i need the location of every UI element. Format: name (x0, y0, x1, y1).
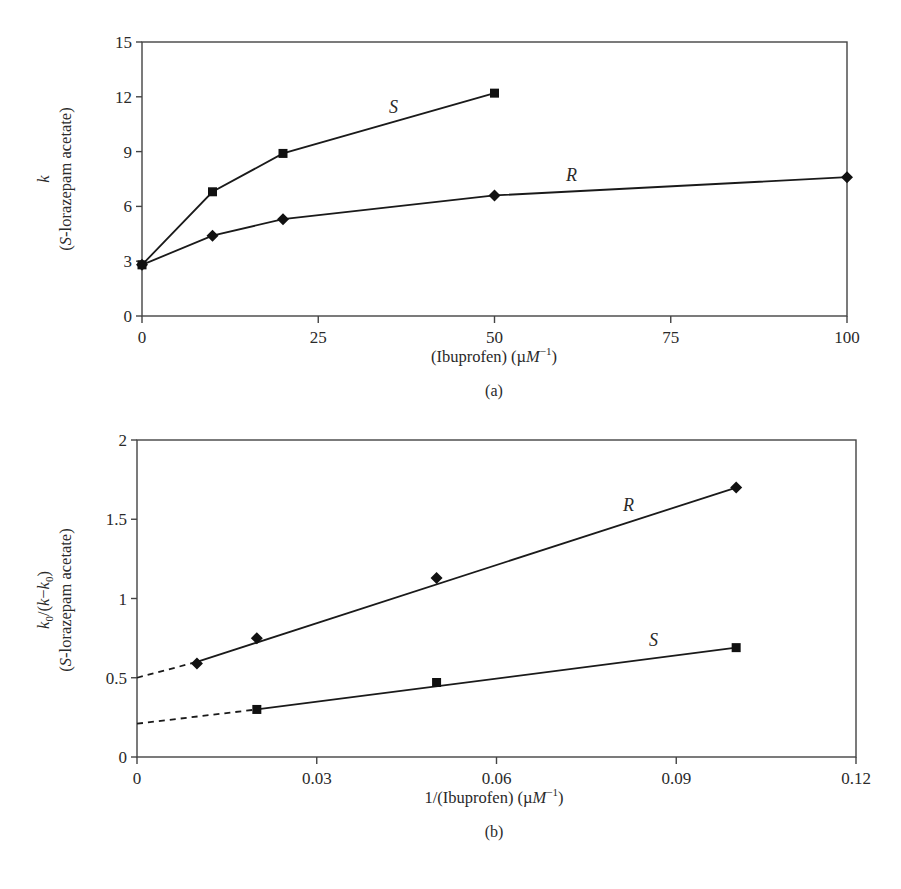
extrapolation-line (137, 709, 257, 723)
y-tick-label: 3 (124, 252, 133, 271)
y-axis-title-a: k (S-lorazepam acetate) (34, 107, 75, 250)
diamond-marker (191, 657, 203, 669)
y-tick-label: 12 (115, 88, 132, 107)
series-group-b (137, 482, 742, 724)
plot-frame-b (137, 440, 856, 757)
x-tick-label: 75 (662, 328, 679, 347)
panel-label-b: (b) (485, 823, 504, 841)
square-marker (279, 149, 288, 158)
y-tick-label: 0.5 (106, 669, 127, 688)
square-marker (208, 187, 217, 196)
x-tick-label: 0.06 (482, 769, 512, 788)
diamond-marker (277, 213, 289, 225)
y-tick-label: 9 (124, 143, 133, 162)
diamond-marker (730, 482, 742, 494)
square-marker (490, 89, 499, 98)
square-marker (432, 678, 441, 687)
series-label-s-b: S (649, 630, 658, 650)
chart-panel-a: 03691215 0255075100 S R (Ibuprofen) (µM−… (34, 33, 860, 400)
extrapolation-line (137, 662, 197, 678)
y-tick-label: 0 (119, 748, 128, 767)
x-tick-label: 50 (486, 328, 503, 347)
y-axis-title-b: k0/(k−k0) (S-lorazepam acetate) (34, 528, 75, 671)
series-s (137, 643, 741, 724)
figure: 03691215 0255075100 S R (Ibuprofen) (µM−… (0, 0, 901, 889)
panel-label-a: (a) (485, 382, 503, 400)
series-label-s: S (389, 97, 398, 117)
diamond-marker (841, 171, 853, 183)
x-axis-a: 0255075100 (138, 316, 860, 347)
x-tick-label: 100 (834, 328, 860, 347)
y-tick-label: 0 (124, 307, 133, 326)
x-tick-label: 0.03 (302, 769, 332, 788)
y-tick-label: 2 (119, 431, 128, 450)
diamond-marker (489, 189, 501, 201)
diamond-marker (251, 632, 263, 644)
chart-panel-b: 00.511.52 00.030.060.090.12 R S 1/(Ibupr… (34, 431, 871, 841)
square-marker (732, 643, 741, 652)
series-line (142, 93, 495, 265)
x-tick-label: 0 (138, 328, 147, 347)
series-label-r-b: R (622, 495, 634, 515)
series-s (138, 89, 500, 270)
square-marker (252, 705, 261, 714)
x-axis-b: 00.030.060.090.12 (133, 757, 871, 788)
fit-line (257, 648, 736, 710)
series-group-a (136, 89, 853, 271)
x-tick-label: 25 (310, 328, 327, 347)
y-axis-title-k: k (34, 175, 53, 183)
y-axis-a: 03691215 (115, 33, 142, 326)
x-axis-title-a: (Ibuprofen) (µM−1) (431, 345, 557, 366)
y-tick-label: 1 (119, 590, 128, 609)
x-tick-label: 0 (133, 769, 142, 788)
y-axis-title-ratio: k0/(k−k0) (34, 571, 55, 629)
series-r (136, 171, 853, 271)
y-tick-label: 15 (115, 33, 132, 52)
plot-frame-a (142, 42, 847, 316)
x-tick-label: 0.12 (841, 769, 871, 788)
x-tick-label: 0.09 (661, 769, 691, 788)
diamond-marker (207, 230, 219, 242)
y-tick-label: 1.5 (106, 510, 127, 529)
y-axis-title-subtitle-a: (S-lorazepam acetate) (56, 107, 75, 250)
y-axis-title-subtitle-b: (S-lorazepam acetate) (56, 528, 75, 671)
y-axis-b: 00.511.52 (106, 431, 137, 767)
y-tick-label: 6 (124, 197, 133, 216)
x-axis-title-b: 1/(Ibuprofen) (µM−1) (425, 786, 564, 807)
series-label-r: R (565, 165, 577, 185)
diamond-marker (431, 572, 443, 584)
